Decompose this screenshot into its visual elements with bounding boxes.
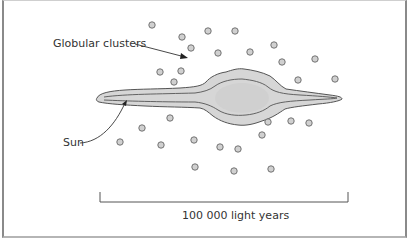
globular-cluster [295, 77, 301, 83]
globular-cluster [188, 45, 194, 51]
sun-pointer [80, 103, 125, 143]
globular-cluster [271, 42, 277, 48]
globular-cluster [178, 68, 184, 74]
globular-cluster [265, 119, 271, 125]
sun-label: Sun [63, 137, 84, 148]
globular-cluster [231, 168, 237, 174]
arrowhead-icon [180, 53, 188, 59]
globular-cluster [288, 118, 294, 124]
globular-cluster [117, 139, 123, 145]
scale-label: 100 000 light years [182, 210, 289, 221]
globular-cluster [306, 120, 312, 126]
galactic-bulge [215, 83, 269, 113]
globular-cluster [191, 137, 197, 143]
globular-cluster [149, 22, 155, 28]
globular-cluster [268, 166, 274, 172]
globular-cluster [192, 164, 198, 170]
globular-cluster [215, 50, 221, 56]
scale-bar [100, 192, 348, 202]
globular-cluster [312, 56, 318, 62]
globular-cluster [235, 146, 241, 152]
globular-cluster [157, 69, 163, 75]
globular-cluster [179, 34, 185, 40]
globular-cluster [217, 144, 223, 150]
globular-cluster [247, 49, 253, 55]
globular-cluster [259, 132, 265, 138]
globular-cluster [167, 115, 173, 121]
globular-cluster [332, 76, 338, 82]
globular-cluster [279, 59, 285, 65]
globular-cluster [205, 28, 211, 34]
globular-cluster [139, 125, 145, 131]
globular-cluster [171, 79, 177, 85]
globular-cluster [232, 28, 238, 34]
globular-cluster [158, 142, 164, 148]
globular-clusters-label: Globular clusters [53, 38, 146, 49]
